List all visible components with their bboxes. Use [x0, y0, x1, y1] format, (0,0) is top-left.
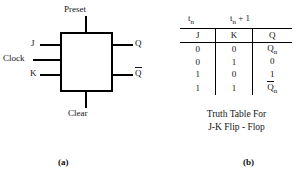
next-state-time-header: tn + 1 — [230, 13, 250, 26]
column-header-j: J — [180, 29, 216, 43]
truth-table-header-row: J K Q — [180, 29, 292, 43]
q-bar-subscript: n — [274, 87, 278, 95]
truth-table: J K Q 0 0 Qn 0 1 — [180, 28, 292, 95]
q-pin-label: Q — [135, 38, 142, 48]
cell-q: Qn — [252, 43, 292, 56]
cell-j: 0 — [180, 43, 216, 56]
cell-k: 0 — [216, 43, 252, 56]
cell-k: 1 — [216, 56, 252, 69]
table-row: 0 1 0 — [180, 56, 292, 69]
subfigure-caption-a: (a) — [58, 157, 69, 168]
q-value: 1 — [270, 69, 275, 79]
cell-j: 0 — [180, 56, 216, 69]
column-header-q: Q — [252, 29, 292, 43]
k-pin-label: K — [30, 68, 37, 78]
present-state-time-header: tn — [188, 13, 194, 26]
j-pin-label: J — [31, 38, 35, 48]
truth-table-caption-line1: Truth Table For — [174, 108, 299, 121]
q-bar-pin-label: Q — [135, 67, 142, 78]
q-value: 0 — [270, 56, 275, 66]
table-row: 1 0 1 — [180, 69, 292, 82]
tn-subscript: n — [191, 18, 195, 26]
subfigure-caption-b: (b) — [243, 157, 254, 168]
table-row: 0 0 Qn — [180, 43, 292, 56]
preset-wire — [85, 16, 87, 34]
truth-table-caption: Truth Table For J-K Flip - Flop — [174, 108, 299, 133]
clear-wire — [85, 90, 87, 108]
truth-table-caption-line2: J-K Flip - Flop — [174, 121, 299, 134]
k-input-wire — [40, 74, 62, 76]
truth-table-panel: tn tn + 1 J K Q 0 0 Qn — [160, 0, 299, 145]
q-subscript: n — [274, 48, 278, 56]
cell-j: 1 — [180, 81, 216, 95]
time-header-row: tn tn + 1 — [178, 13, 294, 27]
table-row: 1 1 Qn — [180, 81, 292, 95]
preset-pin-label: Preset — [64, 4, 86, 14]
tn1-suffix: + 1 — [236, 13, 250, 23]
flipflop-body-box — [60, 32, 113, 92]
truth-table-head: J K Q — [180, 29, 292, 43]
cell-k: 0 — [216, 69, 252, 82]
q-output-wire — [111, 44, 133, 46]
clock-pin-label: Clock — [3, 53, 25, 63]
cell-q: 1 — [252, 69, 292, 82]
q-bar-output-wire — [111, 74, 133, 76]
clear-pin-label: Clear — [68, 108, 88, 118]
j-input-wire — [40, 44, 62, 46]
q-bar-overbar-text: Q — [135, 67, 142, 78]
cell-k: 1 — [216, 81, 252, 95]
cell-q: 0 — [252, 56, 292, 69]
figure-root: Preset Clear J Clock K Q Q tn tn + 1 J K… — [0, 0, 299, 186]
jk-flipflop-symbol-panel: Preset Clear J Clock K Q Q — [0, 0, 160, 145]
truth-table-body: 0 0 Qn 0 1 0 1 0 — [180, 43, 292, 96]
cell-j: 1 — [180, 69, 216, 82]
truth-table-grid: J K Q 0 0 Qn 0 1 — [180, 28, 292, 95]
column-header-k: K — [216, 29, 252, 43]
clock-input-wire — [33, 59, 62, 61]
cell-q: Qn — [252, 81, 292, 95]
